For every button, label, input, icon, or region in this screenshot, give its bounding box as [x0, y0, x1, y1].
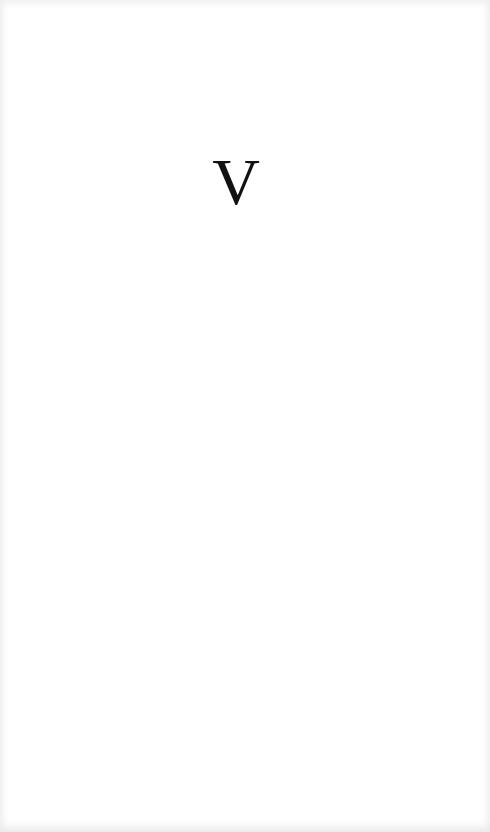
- section-numeral-heading: V: [0, 146, 472, 218]
- document-page: V: [0, 0, 490, 832]
